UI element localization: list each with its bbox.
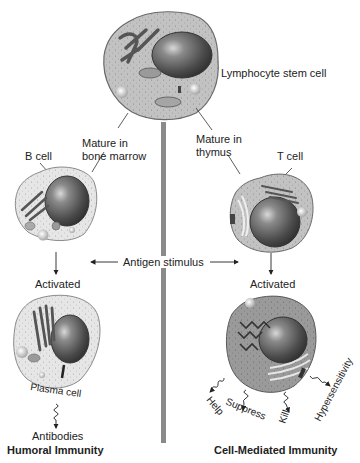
mature-bone-marrow-label: Mature in bone marrow	[82, 137, 146, 163]
nucleus	[152, 32, 212, 78]
hypersensitivity-label: Hypersensitivity	[312, 356, 355, 423]
activated-t-cell	[226, 296, 316, 392]
nucleus	[51, 315, 89, 363]
bone-marrow-leader	[118, 113, 128, 128]
mature-thymus-line1: Mature in	[196, 133, 242, 146]
hypersensitivity-arrow	[310, 376, 330, 386]
help-label: Help	[204, 394, 226, 417]
t-cell	[230, 174, 313, 252]
suppress-label: Suppress	[224, 396, 267, 422]
antibodies-arrow	[54, 404, 58, 428]
activated-right-label: Activated	[250, 278, 295, 290]
lymphocyte-stem-cell	[104, 12, 219, 120]
plasma-cell	[14, 295, 100, 388]
mature-thymus-label: Mature in thymus	[196, 133, 242, 159]
kill-arrow	[284, 392, 289, 412]
lymphocyte-diagram: Help Suppress Kill Hypersensitivity Plas…	[0, 0, 360, 463]
nucleus	[45, 176, 89, 226]
mature-thymus-line2: thymus	[196, 146, 242, 159]
humoral-immunity-label: Humoral Immunity	[7, 444, 104, 456]
mature-bone-marrow-line2: bone marrow	[82, 150, 146, 163]
kill-label: Kill	[277, 408, 292, 424]
activated-left-label: Activated	[35, 278, 80, 290]
antigen-stimulus-label: Antigen stimulus	[120, 256, 207, 268]
b-cell-label: B cell	[25, 150, 52, 162]
help-arrow	[210, 378, 224, 392]
cell-mediated-immunity-label: Cell-Mediated Immunity	[214, 444, 337, 456]
stem-cell-label: Lymphocyte stem cell	[221, 67, 326, 79]
center-divider	[161, 122, 166, 443]
antibodies-label: Antibodies	[32, 430, 83, 442]
nucleus	[250, 197, 300, 247]
mature-bone-marrow-line1: Mature in	[82, 137, 146, 150]
thymus-leader	[196, 108, 212, 130]
t-cell-label: T cell	[277, 150, 303, 162]
b-cell	[15, 167, 96, 241]
